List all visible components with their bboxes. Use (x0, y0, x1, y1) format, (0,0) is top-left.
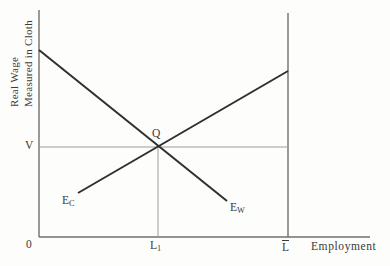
l1-base: L (150, 239, 157, 251)
y-axis-title: Real Wage Measured in Cloth (7, 7, 35, 107)
ec-subscript: C (69, 199, 75, 208)
wage-level-label: V (25, 139, 33, 151)
lbar-base: L (282, 240, 289, 254)
diagram-lines (0, 0, 390, 266)
wheat-labor-demand-label: EW (230, 201, 245, 213)
y-axis-title-line1: Real Wage (7, 7, 21, 107)
origin-label: 0 (26, 238, 32, 250)
cloth-labor-demand-label: EC (62, 194, 75, 206)
ew-subscript: W (237, 206, 245, 215)
ec-labor-demand-curve (78, 71, 288, 193)
ew-base: E (230, 201, 237, 213)
equilibrium-employment-label: L1 (150, 239, 161, 251)
x-axis-title: Employment (311, 240, 376, 252)
total-labor-label: L (282, 240, 289, 254)
y-axis-title-line2: Measured in Cloth (21, 7, 35, 107)
l1-subscript: 1 (157, 244, 161, 253)
ec-base: E (62, 194, 69, 206)
equilibrium-point-label: Q (152, 127, 160, 139)
ew-labor-demand-curve (39, 50, 227, 201)
labor-market-diagram: Real Wage Measured in Cloth V 0 Q L1 L E… (0, 0, 390, 266)
